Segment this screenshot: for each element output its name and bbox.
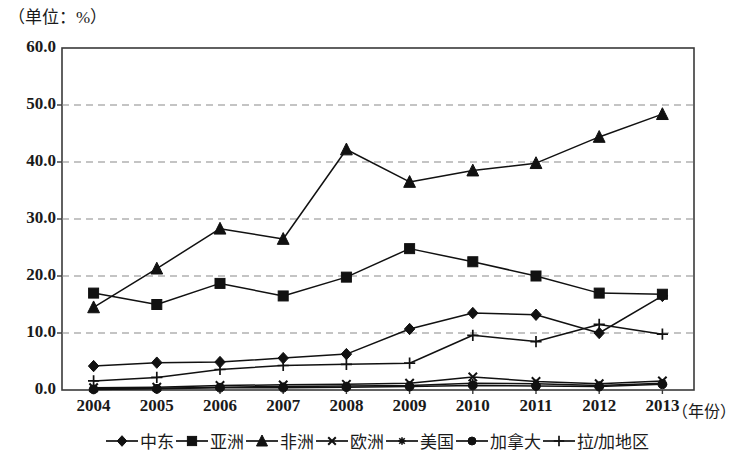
chart-plot-area — [0, 0, 755, 457]
y-axis-label: 10.0 — [0, 322, 56, 342]
legend-label: 欧洲 — [349, 428, 385, 453]
marker-circle — [468, 437, 476, 445]
legend-marker-diamond-icon — [105, 433, 139, 449]
x-axis-label: 2011 — [506, 396, 566, 416]
x-axis-label: 2007 — [253, 396, 313, 416]
legend-label: 亚洲 — [209, 428, 245, 453]
legend-marker-star-icon — [385, 433, 419, 449]
marker-square — [657, 289, 667, 299]
legend-label: 拉/加地区 — [576, 428, 651, 453]
marker-square — [187, 436, 196, 445]
legend-item-中东[interactable]: 中东 — [105, 428, 175, 453]
y-axis-label: 30.0 — [0, 208, 56, 228]
legend-marker-circle-icon — [455, 433, 489, 449]
marker-star — [398, 437, 406, 445]
marker-square — [89, 288, 99, 298]
marker-circle — [595, 382, 604, 391]
legend-item-亚洲[interactable]: 亚洲 — [175, 428, 245, 453]
legend-item-拉/加地区[interactable]: 拉/加地区 — [542, 428, 651, 453]
marker-plus — [553, 435, 563, 445]
x-axis-label: 2008 — [316, 396, 376, 416]
marker-circle — [405, 382, 414, 391]
x-axis-title: （年份） — [672, 398, 736, 422]
marker-circle — [532, 382, 541, 391]
legend-label: 非洲 — [279, 428, 315, 453]
marker-circle — [468, 381, 477, 390]
y-axis-label: 20.0 — [0, 265, 56, 285]
y-axis-label: 40.0 — [0, 151, 56, 171]
legend-marker-plus-icon — [542, 433, 576, 449]
marker-circle — [658, 380, 667, 389]
y-axis-label: 0.0 — [0, 379, 56, 399]
legend-item-美国[interactable]: 美国 — [385, 428, 455, 453]
marker-square — [468, 257, 478, 267]
x-axis-label: 2010 — [443, 396, 503, 416]
marker-diamond — [117, 435, 127, 446]
legend-label: 加拿大 — [489, 428, 542, 453]
x-axis-label: 2005 — [127, 396, 187, 416]
marker-square — [152, 300, 162, 310]
marker-circle — [342, 383, 351, 392]
marker-square — [594, 288, 604, 298]
legend-marker-square-icon — [175, 433, 209, 449]
legend-label: 美国 — [419, 428, 455, 453]
x-axis-label: 2006 — [190, 396, 250, 416]
marker-square — [215, 278, 225, 288]
legend-item-欧洲[interactable]: 欧洲 — [315, 428, 385, 453]
marker-square — [341, 272, 351, 282]
y-axis-label: 50.0 — [0, 94, 56, 114]
legend-marker-x-icon — [315, 433, 349, 449]
marker-circle — [279, 383, 288, 392]
legend-marker-triangle-icon — [245, 433, 279, 449]
legend-item-非洲[interactable]: 非洲 — [245, 428, 315, 453]
x-axis-label: 2012 — [569, 396, 629, 416]
marker-circle — [152, 384, 161, 393]
legend-item-加拿大[interactable]: 加拿大 — [455, 428, 542, 453]
marker-square — [405, 244, 415, 254]
marker-circle — [216, 383, 225, 392]
chart-container: （单位：%） 0.010.020.030.040.050.060.0 20042… — [0, 0, 755, 457]
y-axis-label: 60.0 — [0, 37, 56, 57]
legend-label: 中东 — [139, 428, 175, 453]
marker-square — [531, 271, 541, 281]
marker-square — [278, 291, 288, 301]
x-axis-label: 2004 — [64, 396, 124, 416]
x-axis-label: 2009 — [380, 396, 440, 416]
chart-legend: 中东亚洲非洲欧洲美国加拿大拉/加地区 — [0, 428, 755, 453]
